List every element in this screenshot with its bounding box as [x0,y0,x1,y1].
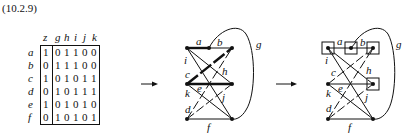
edge-label-d: d [326,102,332,114]
node [371,82,375,86]
edge-label-e: e [338,82,343,94]
matrix-cell: 1 [55,59,61,71]
matrix-cell: 0 [43,85,49,97]
edge-label-g: g [256,38,262,50]
matrix-cell: 1 [43,98,49,110]
edge-label-a: a [196,35,202,47]
matrix-cell: 1 [91,85,97,97]
matrix-cell: 0 [64,85,70,97]
matrix-cell: 0 [55,72,61,84]
edge-label-d: d [185,103,191,115]
edge-label-f: f [207,121,212,133]
matrix-cell: 1 [55,111,61,123]
col-header-j: j [81,31,86,43]
row-label-f: f [28,111,33,123]
matrix-cell: 0 [43,59,49,71]
matrix-cell: 0 [82,59,88,71]
edge-label-a: a [337,35,343,47]
node [185,46,189,50]
figure-canvas: z g h i j k a b c d e f 1 0 1 1 0 0 0 1 … [0,0,405,140]
row-label-c: c [28,72,33,84]
edge-label-g: g [396,38,402,50]
node [185,82,189,86]
matrix-cell: 0 [91,98,97,110]
node [326,82,330,86]
matrix-cell: 0 [55,46,61,58]
edge-label-f: f [348,121,353,133]
matrix-cell: 1 [73,85,79,97]
matrix-cell: 1 [64,46,70,58]
matrix-cell: 1 [82,98,88,110]
matrix-cell: 1 [64,72,70,84]
edge-label-c: c [185,68,190,80]
matrix-cell: 0 [91,46,97,58]
matrix-cell: 1 [43,46,49,58]
incidence-matrix: z g h i j k a b c d e f 1 0 1 1 0 0 0 1 … [28,31,100,125]
row-label-d: d [28,85,34,97]
col-header-k: k [92,31,98,43]
node [326,46,330,50]
edge-label-i: i [184,54,187,66]
matrix-cell: 1 [91,72,97,84]
col-header-i: i [74,31,77,43]
matrix-cell: 1 [55,85,61,97]
matrix-cell: 1 [43,72,49,84]
matrix-cell: 1 [82,85,88,97]
edge-label-h: h [222,65,228,77]
node [230,46,234,50]
edge-label-b: b [360,36,366,48]
matrix-cell: 0 [82,111,88,123]
edge-label-c: c [331,66,336,78]
edge-label-e: e [197,82,202,94]
arrow-right-icon [141,82,158,87]
node [326,117,330,121]
matrix-cell: 1 [73,111,79,123]
matrix-cell: 1 [91,111,97,123]
edge-label-b: b [217,36,223,48]
node [230,117,234,121]
node [371,46,375,50]
matrix-cell: 1 [73,59,79,71]
col-header-z: z [42,31,48,43]
edge-label-i: i [325,54,328,66]
matrix-cell: 1 [64,59,70,71]
row-label-e: e [28,98,33,110]
matrix-cell: 0 [55,98,61,110]
node [349,46,353,50]
matrix-cell: 0 [64,111,70,123]
matrix-cell: 0 [91,59,97,71]
matrix-cell: 1 [64,98,70,110]
matrix-cell: 1 [82,72,88,84]
matrix-cell: 0 [43,111,49,123]
node [230,82,234,86]
col-header-h: h [64,31,70,43]
edge-label-k: k [185,87,191,99]
matrix-cell: 0 [73,98,79,110]
col-header-g: g [55,31,61,43]
matrix-cell: 1 [73,46,79,58]
arrow-right-icon [276,82,297,87]
row-label-a: a [28,46,34,58]
edge-label-j: j [363,91,368,103]
edge-label-k: k [326,87,332,99]
row-label-b: b [28,59,34,71]
matrix-cell: 0 [82,46,88,58]
node [371,117,375,121]
node [207,46,211,50]
edge-label-h: h [366,64,372,76]
matrix-cell: 0 [73,72,79,84]
node [185,117,189,121]
